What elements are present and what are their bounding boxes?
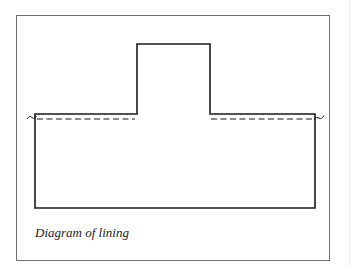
figure-caption: Diagram of lining <box>35 225 129 241</box>
lining-outline <box>35 44 315 208</box>
